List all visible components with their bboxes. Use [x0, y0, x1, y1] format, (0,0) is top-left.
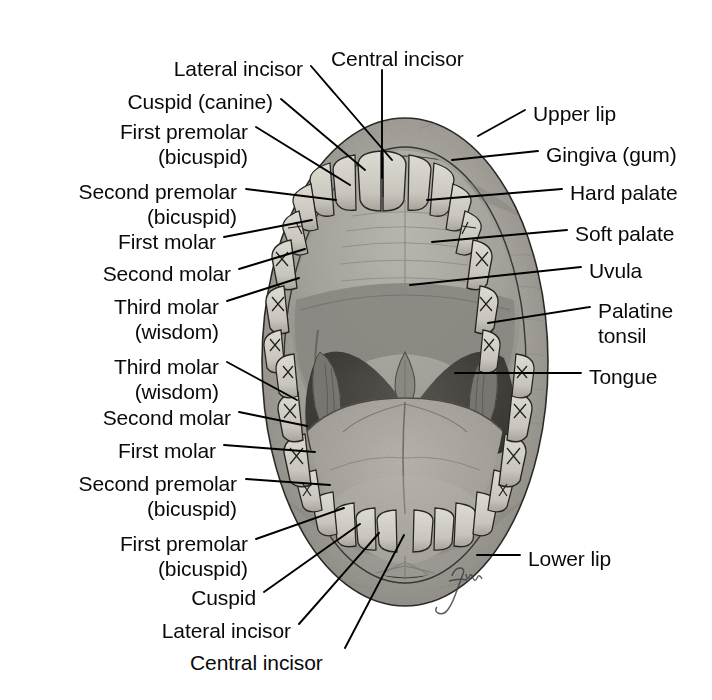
label-soft-palate-line-1: Soft palate	[575, 221, 674, 246]
label-second-molar-lower: Second molar	[103, 405, 231, 430]
label-first-premolar-upper-line-2: (bicuspid)	[120, 144, 248, 169]
label-tongue: Tongue	[589, 364, 657, 389]
label-third-molar-wisdom-lower-line-2: (wisdom)	[114, 379, 219, 404]
label-first-premolar-lower-line-2: (bicuspid)	[120, 556, 248, 581]
tooth-third-molar-upper-right	[479, 330, 500, 373]
label-second-molar-lower-line-1: Second molar	[103, 405, 231, 430]
label-palatine-tonsil: Palatinetonsil	[598, 298, 673, 348]
label-third-molar-wisdom-lower-line-1: Third molar	[114, 354, 219, 379]
label-cuspid-lower-line-1: Cuspid	[191, 585, 256, 610]
label-lateral-incisor-upper-line-1: Lateral incisor	[174, 56, 303, 81]
label-second-premolar-upper-line-2: (bicuspid)	[79, 204, 237, 229]
label-uvula-line-1: Uvula	[589, 258, 642, 283]
label-tongue-line-1: Tongue	[589, 364, 657, 389]
label-second-premolar-lower-line-1: Second premolar	[79, 471, 237, 496]
label-lateral-incisor-lower: Lateral incisor	[162, 618, 291, 643]
label-central-incisor-lower: Central incisor	[190, 650, 323, 675]
oral-cavity-anatomy-figure: Lateral incisorCuspid (canine)First prem…	[0, 0, 712, 700]
label-third-molar-wisdom-upper: Third molar(wisdom)	[114, 294, 219, 344]
label-gingiva-gum: Gingiva (gum)	[546, 142, 677, 167]
label-first-premolar-upper-line-1: First premolar	[120, 119, 248, 144]
tooth-cuspid-lower-right	[454, 503, 476, 547]
tooth-central-incisor-lower-left	[377, 510, 397, 552]
label-palatine-tonsil-line-1: Palatine	[598, 298, 673, 323]
label-first-molar-upper-line-1: First molar	[118, 229, 216, 254]
label-hard-palate-line-1: Hard palate	[570, 180, 677, 205]
label-first-molar-lower: First molar	[118, 438, 216, 463]
tooth-lateral-incisor-upper-right	[408, 155, 431, 210]
label-upper-lip-line-1: Upper lip	[533, 101, 616, 126]
label-first-premolar-lower-line-1: First premolar	[120, 531, 248, 556]
label-uvula: Uvula	[589, 258, 642, 283]
label-first-molar-lower-line-1: First molar	[118, 438, 216, 463]
label-first-premolar-lower: First premolar(bicuspid)	[120, 531, 248, 581]
label-second-molar-upper-line-1: Second molar	[103, 261, 231, 286]
label-third-molar-wisdom-upper-line-2: (wisdom)	[114, 319, 219, 344]
label-lower-lip: Lower lip	[528, 546, 611, 571]
label-central-incisor-upper-line-1: Central incisor	[331, 46, 464, 71]
tooth-third-molar-lower-right	[512, 354, 534, 398]
label-first-molar-upper: First molar	[118, 229, 216, 254]
label-gingiva-gum-line-1: Gingiva (gum)	[546, 142, 677, 167]
label-palatine-tonsil-line-2: tonsil	[598, 323, 673, 348]
tooth-lateral-incisor-lower-right	[434, 508, 454, 550]
label-soft-palate: Soft palate	[575, 221, 674, 246]
label-lateral-incisor-lower-line-1: Lateral incisor	[162, 618, 291, 643]
label-cuspid-lower: Cuspid	[191, 585, 256, 610]
tooth-central-incisor-upper-right	[383, 151, 406, 211]
label-second-premolar-upper: Second premolar(bicuspid)	[79, 179, 237, 229]
label-first-premolar-upper: First premolar(bicuspid)	[120, 119, 248, 169]
label-cuspid-canine-upper-line-1: Cuspid (canine)	[127, 89, 273, 114]
label-second-molar-upper: Second molar	[103, 261, 231, 286]
label-third-molar-wisdom-lower: Third molar(wisdom)	[114, 354, 219, 404]
label-central-incisor-lower-line-1: Central incisor	[190, 650, 323, 675]
leader-upper-lip	[478, 110, 525, 136]
label-central-incisor-upper: Central incisor	[331, 46, 464, 71]
label-third-molar-wisdom-upper-line-1: Third molar	[114, 294, 219, 319]
label-cuspid-canine-upper: Cuspid (canine)	[127, 89, 273, 114]
label-hard-palate: Hard palate	[570, 180, 677, 205]
label-second-premolar-lower: Second premolar(bicuspid)	[79, 471, 237, 521]
tooth-central-incisor-upper-left	[358, 151, 381, 211]
tooth-central-incisor-lower-right	[413, 510, 433, 552]
label-lateral-incisor-upper: Lateral incisor	[174, 56, 303, 81]
label-lower-lip-line-1: Lower lip	[528, 546, 611, 571]
label-upper-lip: Upper lip	[533, 101, 616, 126]
tooth-lateral-incisor-lower-left	[356, 508, 376, 550]
label-second-premolar-upper-line-1: Second premolar	[79, 179, 237, 204]
label-second-premolar-lower-line-2: (bicuspid)	[79, 496, 237, 521]
